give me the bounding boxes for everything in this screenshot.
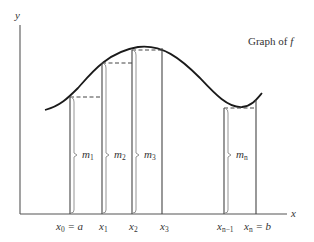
riemann-lower-sum-diagram: y x m1 m2 m3 mn x0 = a x1 x2 x3 xn−1 xn …	[0, 0, 314, 242]
function-curve	[45, 47, 262, 110]
partition-label-x3: x3	[159, 220, 169, 234]
height-label-m3: m3	[144, 148, 156, 162]
partition-label-x1: x1	[98, 220, 108, 234]
height-label-mn: mn	[236, 148, 248, 162]
partition-label-x0-a: x0 = a	[55, 220, 84, 234]
y-axis-label: y	[14, 9, 20, 21]
rectangle-2	[102, 63, 132, 214]
height-label-m2: m2	[114, 148, 126, 162]
partition-label-x2: x2	[128, 220, 138, 234]
rectangle-3	[132, 48, 162, 214]
partition-label-xn-b: xn = b	[243, 220, 272, 234]
height-label-m1: m1	[82, 148, 94, 162]
partition-label-xn-1: xn−1	[216, 220, 234, 234]
x-axis-label: x	[290, 207, 296, 219]
graph-title: Graph of f	[248, 35, 295, 47]
